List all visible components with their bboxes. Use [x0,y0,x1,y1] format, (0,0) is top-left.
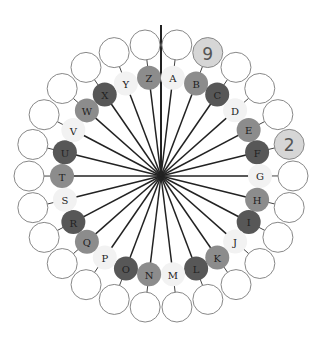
outer-slot-m[interactable] [162,292,192,322]
outer-slot-q[interactable] [47,249,77,279]
letter-label-v: V [69,126,78,137]
outer-slot-i[interactable] [263,222,293,252]
letter-label-f: F [254,148,261,159]
outer-slot-z[interactable] [130,30,160,60]
outer-slot-w[interactable] [47,74,77,104]
letter-label-u: U [61,148,69,159]
letter-label-s: S [61,195,68,206]
letter-label-o: O [122,264,130,275]
letter-circle-i[interactable]: I [237,210,261,234]
outer-slot-x[interactable] [71,52,101,82]
letter-circle-q[interactable]: Q [75,230,99,254]
outer-value-b: 9 [202,44,213,64]
letter-circle-y[interactable]: Y [114,71,138,95]
letter-circle-g[interactable]: G [248,164,272,188]
letter-circle-b[interactable]: B [184,71,208,95]
letter-circle-e[interactable]: E [237,118,261,142]
letter-label-e: E [245,125,252,136]
letter-label-w: W [82,106,93,117]
letter-circle-t[interactable]: T [50,164,74,188]
letter-label-b: B [192,79,199,90]
letter-label-z: Z [146,73,153,84]
letter-circle-k[interactable]: K [205,245,229,269]
outer-slot-g[interactable] [278,161,308,191]
letter-circle-h[interactable]: H [245,188,269,212]
outer-slot-e[interactable] [263,100,293,130]
letter-circle-u[interactable]: U [53,140,77,164]
outer-value-f: 2 [284,135,295,155]
letter-label-j: J [232,237,237,248]
letter-circle-d[interactable]: D [223,98,247,122]
outer-slot-n[interactable] [130,292,160,322]
letter-label-x: X [101,90,109,101]
letter-circle-c[interactable]: C [205,83,229,107]
cipher-wheel: 92 ABCDEFGHIJKLMNOPQRSTUVWXYZ [0,0,327,344]
letter-circle-w[interactable]: W [75,98,99,122]
outer-slot-a[interactable] [162,30,192,60]
letter-label-q: Q [83,237,91,248]
outer-slot-o[interactable] [99,284,129,314]
outer-slot-r[interactable] [29,222,59,252]
letter-label-n: N [145,270,154,281]
outer-slot-u[interactable] [18,129,48,159]
letter-circle-s[interactable]: S [53,188,77,212]
letter-label-m: M [168,270,178,281]
outer-slot-p[interactable] [71,270,101,300]
outer-slot-f[interactable]: 2 [274,129,304,159]
letter-circle-z[interactable]: Z [137,66,161,90]
outer-slot-y[interactable] [99,38,129,68]
outer-slot-k[interactable] [221,270,251,300]
letter-label-p: P [101,253,108,264]
letter-label-k: K [214,253,222,264]
letter-label-y: Y [122,79,130,90]
outer-slot-d[interactable] [245,73,275,103]
letter-label-r: R [70,218,78,229]
letter-label-d: D [231,106,239,117]
letter-circle-l[interactable]: L [184,257,208,281]
outer-slot-l[interactable] [193,284,223,314]
outer-slot-s[interactable] [18,193,48,223]
letter-circle-o[interactable]: O [114,257,138,281]
letter-label-i: I [247,217,251,228]
outer-slot-c[interactable] [221,52,251,82]
letter-label-h: H [253,195,262,206]
letter-label-l: L [193,264,200,275]
letter-circle-r[interactable]: R [61,210,85,234]
letter-label-g: G [256,171,264,182]
letter-circle-v[interactable]: V [61,118,85,142]
outer-slot-v[interactable] [29,100,59,130]
letter-label-a: A [168,73,177,84]
letter-circle-m[interactable]: M [161,262,185,286]
letter-label-c: C [213,90,221,101]
outer-slot-h[interactable] [274,193,304,223]
letter-label-t: T [59,172,66,183]
letter-circle-j[interactable]: J [223,230,247,254]
letter-circle-p[interactable]: P [93,245,117,269]
outer-slot-j[interactable] [245,248,275,278]
outer-slot-b[interactable]: 9 [193,38,223,68]
letter-circle-f[interactable]: F [245,140,269,164]
letter-circle-a[interactable]: A [161,66,185,90]
letter-circle-x[interactable]: X [93,83,117,107]
letter-circle-n[interactable]: N [137,262,161,286]
outer-slot-t[interactable] [14,161,44,191]
